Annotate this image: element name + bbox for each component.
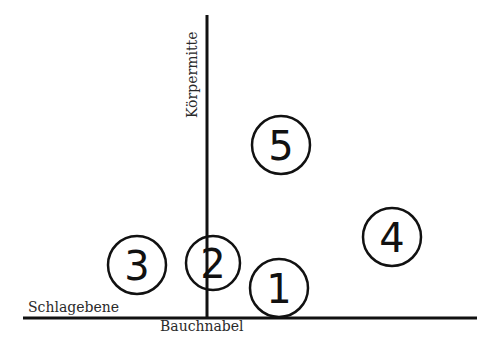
marker-4: 4 <box>363 208 421 266</box>
diagram-canvas: Körpermitte Schlagebene Bauchnabel 1 2 3… <box>0 0 497 351</box>
marker-number: 4 <box>379 215 404 261</box>
marker-number: 2 <box>200 241 225 287</box>
horizontal-axis-label: Schlagebene <box>28 299 119 315</box>
marker-2: 2 <box>186 236 240 290</box>
marker-number: 1 <box>266 266 291 312</box>
vertical-axis-label: Körpermitte <box>184 32 200 118</box>
origin-label: Bauchnabel <box>160 318 244 334</box>
marker-1: 1 <box>250 259 308 317</box>
marker-number: 5 <box>268 123 293 169</box>
marker-5: 5 <box>252 116 310 174</box>
marker-3: 3 <box>108 236 166 294</box>
marker-number: 3 <box>124 243 149 289</box>
